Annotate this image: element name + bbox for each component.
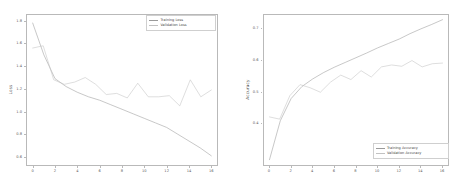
y-tick-label: 0.6 (5, 155, 22, 159)
x-tick-label: 10 (375, 169, 380, 173)
x-tick-label: 16 (209, 169, 214, 173)
y-tick-mark (24, 157, 26, 158)
legend-line-swatch (149, 20, 158, 21)
y-tick-label: 1.4 (5, 64, 22, 68)
y-tick-label: 0.6 (242, 58, 259, 62)
x-tick-label: 12 (396, 169, 401, 173)
x-tick-mark (189, 166, 190, 168)
x-tick-label: 16 (440, 169, 445, 173)
legend-label: Validation Loss (161, 23, 187, 28)
y-tick-mark (24, 66, 26, 67)
x-tick-mark (122, 166, 123, 168)
y-tick-label: 1.0 (5, 110, 22, 114)
x-tick-mark (356, 166, 357, 168)
x-tick-mark (33, 166, 34, 168)
y-tick-mark (261, 60, 263, 61)
x-tick-mark (100, 166, 101, 168)
legend-label: Validation Accuracy (387, 151, 421, 156)
y-tick-mark (24, 43, 26, 44)
legend-line-swatch (376, 153, 385, 154)
x-tick-label: 6 (333, 169, 335, 173)
y-tick-mark (261, 123, 263, 124)
x-tick-label: 14 (187, 169, 192, 173)
y-tick-label: 1.8 (5, 19, 22, 23)
y-tick-mark (261, 92, 263, 93)
x-tick-mark (167, 166, 168, 168)
x-tick-label: 2 (289, 169, 291, 173)
x-tick-label: 0 (268, 169, 270, 173)
accuracy-chart-panel: Accuracy 0.40.50.60.70246810121416 Train… (231, 0, 461, 184)
series-line (33, 23, 212, 156)
x-tick-label: 10 (142, 169, 147, 173)
x-tick-mark (55, 166, 56, 168)
y-tick-mark (261, 28, 263, 29)
x-tick-mark (291, 166, 292, 168)
legend-item[interactable]: Validation Accuracy (376, 151, 445, 156)
y-tick-mark (24, 21, 26, 22)
x-tick-label: 8 (354, 169, 356, 173)
legend-item[interactable]: Validation Loss (149, 23, 212, 28)
loss-chart-panel: Loss 0.60.81.01.21.41.61.80246810121416 … (0, 0, 231, 184)
x-tick-label: 12 (164, 169, 169, 173)
x-tick-mark (377, 166, 378, 168)
y-tick-mark (24, 134, 26, 135)
y-tick-mark (24, 89, 26, 90)
y-tick-label: 1.2 (5, 87, 22, 91)
x-tick-mark (399, 166, 400, 168)
x-tick-label: 0 (32, 169, 34, 173)
x-tick-label: 8 (121, 169, 123, 173)
loss-legend: Training LossValidation Loss (146, 15, 216, 31)
x-tick-mark (312, 166, 313, 168)
y-tick-mark (24, 112, 26, 113)
y-tick-label: 1.6 (5, 41, 22, 45)
legend-line-swatch (376, 148, 385, 149)
x-tick-mark (144, 166, 145, 168)
x-tick-mark (269, 166, 270, 168)
x-tick-mark (442, 166, 443, 168)
x-tick-label: 4 (76, 169, 78, 173)
y-tick-label: 0.5 (242, 90, 259, 94)
accuracy-legend: Training AccuracyValidation Accuracy (373, 143, 449, 159)
figure-canvas: Loss 0.60.81.01.21.41.61.80246810121416 … (0, 0, 461, 184)
x-tick-mark (420, 166, 421, 168)
x-tick-mark (211, 166, 212, 168)
y-tick-label: 0.8 (5, 132, 22, 136)
legend-line-swatch (149, 25, 158, 26)
x-tick-mark (77, 166, 78, 168)
y-tick-label: 0.4 (242, 121, 259, 125)
y-tick-label: 0.7 (242, 26, 259, 30)
x-tick-label: 6 (99, 169, 101, 173)
x-tick-label: 4 (311, 169, 313, 173)
x-tick-mark (334, 166, 335, 168)
x-tick-label: 14 (418, 169, 423, 173)
x-tick-label: 2 (54, 169, 56, 173)
series-line (33, 46, 212, 106)
series-line (269, 61, 442, 120)
